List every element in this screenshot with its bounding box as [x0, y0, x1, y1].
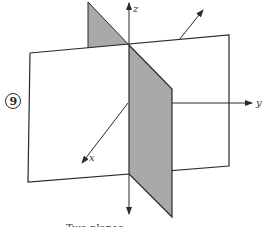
two-planes-diagram: z y x 9 Two planes: [0, 0, 265, 227]
figure-caption: Two planes: [66, 222, 123, 227]
shaded-plane-upper: [88, 2, 129, 49]
figure-number: 9: [10, 95, 18, 108]
z-axis-label: z: [132, 3, 139, 14]
back-axis-arrow: [179, 10, 203, 40]
x-axis-label: x: [89, 152, 95, 163]
y-axis-label: y: [255, 97, 262, 108]
